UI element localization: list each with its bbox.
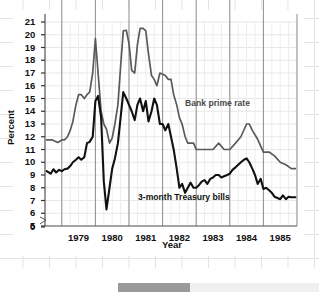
y-axis-tick-6: 6 xyxy=(19,207,35,218)
y-axis-tick-9: 9 xyxy=(19,169,35,180)
x-axis-tick-1984: 1984 xyxy=(230,232,264,243)
y-axis-tick-11: 11 xyxy=(19,144,35,155)
y-axis-tick-21: 21 xyxy=(19,16,35,27)
y-axis-tick-20: 20 xyxy=(19,29,35,40)
y-axis-tick-18: 18 xyxy=(19,54,35,65)
interest-rates-chart: Percent Year Bank prime rate 3-month Tre… xyxy=(0,0,319,268)
x-axis-tick-1985: 1985 xyxy=(263,232,297,243)
y-axis-tick-14: 14 xyxy=(19,105,35,116)
horizontal-scrollbar-thumb[interactable] xyxy=(118,283,190,292)
plot-svg xyxy=(0,0,319,268)
chart-screenshot: Percent Year Bank prime rate 3-month Tre… xyxy=(0,0,319,292)
y-axis-tick-8: 8 xyxy=(19,182,35,193)
y-axis-tick-19: 19 xyxy=(19,42,35,53)
series-label-bank-prime-rate: Bank prime rate xyxy=(185,98,250,108)
series-label-treasury-bills: 3-month Treasury bills xyxy=(138,192,230,202)
y-axis-tick-13: 13 xyxy=(19,118,35,129)
y-axis-title: Percent xyxy=(5,102,16,154)
y-axis-tick-15: 15 xyxy=(19,93,35,104)
y-axis-tick-17: 17 xyxy=(19,67,35,78)
y-axis-tick-12: 12 xyxy=(19,131,35,142)
y-axis-tick-5: 5 xyxy=(19,220,35,231)
x-axis-tick-1981: 1981 xyxy=(129,232,163,243)
x-axis-tick-1982: 1982 xyxy=(162,232,196,243)
y-axis-tick-10: 10 xyxy=(19,156,35,167)
x-axis-tick-1983: 1983 xyxy=(196,232,230,243)
x-axis-tick-1980: 1980 xyxy=(95,232,129,243)
y-axis-tick-7: 7 xyxy=(19,195,35,206)
y-axis-tick-16: 16 xyxy=(19,80,35,91)
x-axis-tick-1979: 1979 xyxy=(62,232,96,243)
